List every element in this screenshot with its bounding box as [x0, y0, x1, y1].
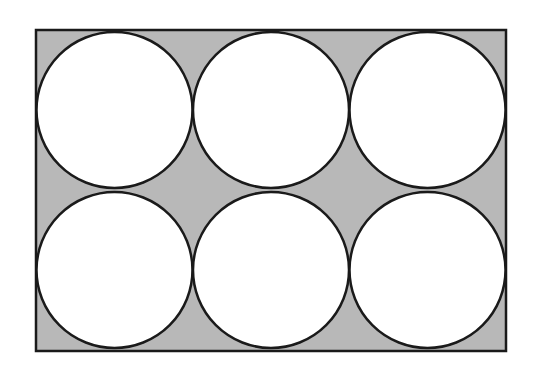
circle-1: [37, 32, 193, 188]
circle-2: [193, 32, 349, 188]
circle-4: [37, 192, 193, 348]
circles-in-rectangle-diagram: [0, 0, 535, 370]
circle-3: [350, 32, 506, 188]
circle-6: [350, 192, 506, 348]
circle-5: [193, 192, 349, 348]
